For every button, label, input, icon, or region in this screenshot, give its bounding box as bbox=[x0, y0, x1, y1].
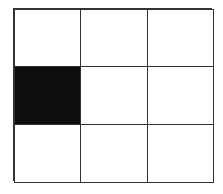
grid-cell-r0-c2 bbox=[147, 9, 214, 67]
grid-cell-r2-c1 bbox=[80, 124, 148, 183]
grid-3x3 bbox=[13, 8, 212, 181]
grid-cell-r0-c0 bbox=[14, 9, 81, 67]
grid-cell-r1-c2 bbox=[147, 66, 214, 125]
grid-cell-r2-c2 bbox=[147, 124, 214, 183]
grid-cell-r0-c1 bbox=[80, 9, 148, 67]
grid-cell-r1-c1 bbox=[80, 66, 148, 125]
grid-cell-r1-c0-filled bbox=[14, 66, 81, 125]
grid-cell-r2-c0 bbox=[14, 124, 81, 183]
